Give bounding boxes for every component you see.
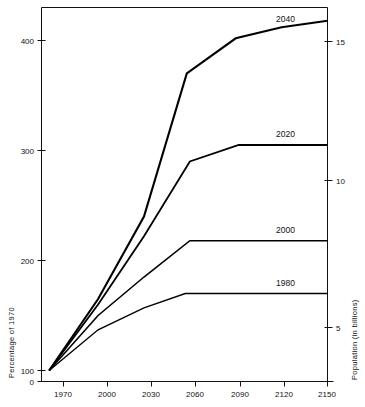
x-tick-label-2120: 2120 [275, 390, 293, 399]
x-axis-ticks [64, 382, 328, 387]
x-tick-label-2060: 2060 [186, 390, 204, 399]
x-tick-label-2090: 2090 [231, 390, 249, 399]
left-tick-label-200: 200 [21, 257, 35, 266]
series-label-1980: 1980 [276, 278, 295, 288]
right-tick-label-5: 5 [336, 324, 341, 333]
left-tick-label-300: 300 [21, 147, 35, 156]
x-tick-label-2030: 2030 [142, 390, 160, 399]
population-projection-chart: 400 300 200 100 0 15 10 5 1970 2000 2030… [0, 0, 365, 407]
right-tick-label-15: 15 [336, 38, 345, 47]
series-label-2000: 2000 [276, 225, 295, 235]
x-tick-label-2000: 2000 [98, 390, 116, 399]
right-axis-title: Population (in billions) [350, 299, 359, 380]
series-label-2020: 2020 [276, 129, 295, 139]
right-tick-label-10: 10 [336, 177, 345, 186]
left-tick-label-100: 100 [21, 367, 35, 376]
x-tick-label-1970: 1970 [54, 390, 72, 399]
series-label-2040: 2040 [276, 14, 295, 24]
left-axis-title: Percentage of 1970 [7, 307, 16, 378]
chart-canvas: 400 300 200 100 0 15 10 5 1970 2000 2030… [0, 0, 365, 407]
series-lines [49, 21, 327, 371]
left-tick-label-0: 0 [30, 378, 35, 387]
series-line-1980 [49, 294, 327, 371]
series-line-2040 [49, 21, 327, 371]
series-line-2000 [49, 241, 327, 371]
plot-frame [42, 8, 334, 382]
x-tick-label-2150: 2150 [318, 390, 336, 399]
right-axis-ticks [325, 42, 333, 328]
left-tick-label-400: 400 [21, 37, 35, 46]
